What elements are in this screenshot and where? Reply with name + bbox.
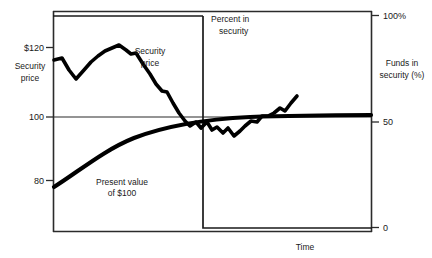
right-tick-label-0: 0 bbox=[383, 223, 388, 233]
annotation-present-value-line1: Present value bbox=[96, 177, 148, 187]
annotation-percent-in-security-line1: Percent in bbox=[211, 14, 250, 24]
chart-svg: $120 100 80 Security price 100% 50 0 Fun… bbox=[0, 0, 432, 258]
right-axis-title-line2: security (%) bbox=[380, 70, 425, 80]
annotation-security-price-line1: Security bbox=[135, 46, 166, 56]
left-axis-title-line2: price bbox=[21, 73, 40, 83]
left-tick-label-120: $120 bbox=[24, 43, 44, 53]
left-axis-title-line1: Security bbox=[15, 61, 46, 71]
annotation-percent-in-security-line2: security bbox=[219, 26, 249, 36]
right-axis-title-line1: Funds in bbox=[386, 58, 419, 68]
left-tick-label-100: 100 bbox=[29, 112, 44, 122]
right-tick-label-50: 50 bbox=[383, 117, 393, 127]
right-tick-label-100: 100% bbox=[383, 11, 406, 21]
annotation-present-value-line2: of $100 bbox=[108, 188, 137, 198]
annotation-security-price-line2: price bbox=[141, 58, 160, 68]
x-axis-title: Time bbox=[296, 242, 315, 252]
chart-figure: $120 100 80 Security price 100% 50 0 Fun… bbox=[0, 0, 432, 258]
left-tick-label-80: 80 bbox=[34, 176, 44, 186]
